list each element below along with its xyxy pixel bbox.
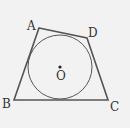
label-o: O [56, 69, 66, 83]
diagram-canvas: A D B C O [0, 0, 130, 128]
geometry-diagram: A D B C O [0, 0, 130, 128]
label-d: D [88, 26, 98, 40]
label-c: C [110, 100, 119, 114]
label-a: A [26, 19, 36, 33]
label-b: B [2, 97, 11, 111]
